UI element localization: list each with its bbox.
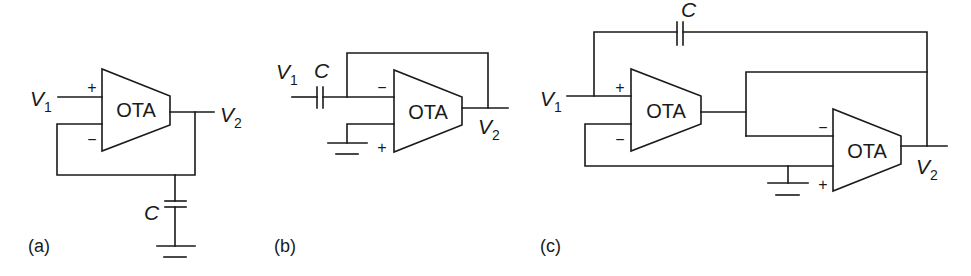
panel-c: OTA + − OTA − + V1 C V2 (c) [540,0,947,256]
ota-label-c2: OTA [847,140,887,162]
ota-circuits-figure: OTA + − V1 V2 C (a) OTA − + V1 C [0,0,971,276]
caption-c: (c) [540,236,561,256]
caption-a: (a) [28,236,50,256]
plus-sign-c2: + [818,176,827,193]
ota-label-b: OTA [408,101,448,123]
panel-b: OTA − + V1 C V2 (b) [274,53,508,256]
plus-sign-a: + [87,79,96,96]
ota-label-a: OTA [116,99,156,121]
v2-label-a: V2 [220,103,242,131]
plus-sign-b: + [377,139,386,156]
v1-label-b: V1 [276,60,298,88]
ota-label-c1: OTA [646,100,686,122]
caption-b: (b) [274,236,296,256]
minus-sign-c1: − [615,131,624,148]
capacitor-label-c: C [681,0,697,21]
capacitor-label-a: C [144,201,160,224]
panel-a: OTA + − V1 V2 C (a) [28,69,242,257]
wire-cap-right-c [683,32,927,146]
v2-label-b: V2 [478,115,500,143]
wire-plus-ground-b [347,124,394,143]
v2-label-c: V2 [916,155,938,183]
minus-sign-c2: − [818,119,827,136]
minus-sign-b: − [377,79,386,96]
minus-sign-a: − [87,131,96,148]
v1-label-a: V1 [30,87,52,115]
v1-label-c: V1 [540,87,562,115]
plus-sign-c1: + [615,79,624,96]
capacitor-label-b: C [314,59,330,82]
